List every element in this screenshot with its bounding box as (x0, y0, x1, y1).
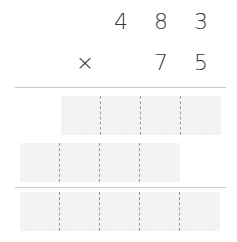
answer-cell[interactable] (60, 143, 100, 182)
answer-cell[interactable] (141, 96, 181, 135)
answer-divider-line (15, 87, 226, 88)
answer-cell[interactable] (100, 192, 140, 231)
answer-cell[interactable] (101, 96, 141, 135)
partial-product-row-1 (61, 96, 221, 135)
answer-cell[interactable] (60, 192, 100, 231)
multiply-sign: × (75, 52, 95, 74)
answer-cell[interactable] (181, 96, 221, 135)
multiplicand-digit-units: 3 (191, 11, 211, 33)
answer-cell[interactable] (140, 143, 180, 182)
answer-cell[interactable] (20, 143, 60, 182)
multiplicand-digit-tens: 8 (151, 11, 171, 33)
answer-cell[interactable] (180, 192, 220, 231)
partial-product-row-2 (20, 143, 180, 182)
answer-cell[interactable] (61, 96, 101, 135)
sum-divider-line (15, 187, 226, 188)
final-product-row (20, 192, 220, 231)
answer-cell[interactable] (100, 143, 140, 182)
answer-cell[interactable] (140, 192, 180, 231)
multiplicand-digit-hundreds: 4 (111, 11, 131, 33)
multiplier-digit-tens: 7 (151, 52, 171, 74)
answer-cell[interactable] (20, 192, 60, 231)
multiplier-digit-units: 5 (191, 52, 211, 74)
